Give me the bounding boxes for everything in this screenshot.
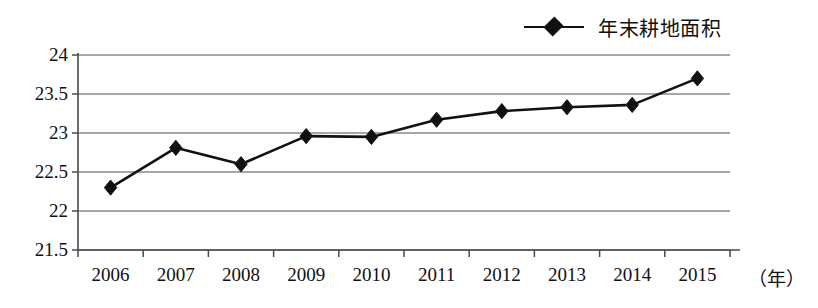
- x-axis-tick-label: 2012: [483, 264, 521, 286]
- x-axis-ticks: [78, 250, 730, 257]
- data-point-marker: [626, 97, 638, 112]
- data-point-marker: [561, 100, 573, 115]
- chart-legend: 年末耕地面积: [524, 10, 721, 44]
- data-point-marker: [365, 129, 377, 144]
- y-axis-tick-label: 24: [49, 44, 68, 66]
- data-point-marker: [691, 71, 703, 86]
- y-axis-tick-label: 23.5: [35, 83, 68, 105]
- y-axis-tick-label: 23: [49, 122, 68, 144]
- data-point-marker: [235, 157, 247, 172]
- data-point-marker: [496, 104, 508, 119]
- y-axis-labels: 21.52222.52323.524: [0, 0, 68, 308]
- data-point-marker: [430, 112, 442, 127]
- legend-entry-label: 年末耕地面积: [598, 13, 721, 42]
- data-point-marker: [300, 129, 312, 144]
- y-axis-ticks: [72, 55, 78, 250]
- legend-diamond-marker-icon: [524, 19, 584, 35]
- x-axis-tick-label: 2011: [418, 264, 455, 286]
- data-point-marker: [104, 180, 116, 195]
- x-axis-tick-label: 2015: [678, 264, 716, 286]
- x-axis-tick-label: 2006: [92, 264, 130, 286]
- plot-area: [0, 0, 818, 308]
- x-axis-unit-label: （年）: [748, 264, 805, 291]
- x-axis-tick-label: 2014: [613, 264, 651, 286]
- x-axis-tick-label: 2009: [287, 264, 325, 286]
- x-axis-tick-label: 2008: [222, 264, 260, 286]
- x-axis-tick-label: 2010: [352, 264, 390, 286]
- y-axis-tick-label: 22.5: [35, 161, 68, 183]
- y-axis-tick-label: 22: [49, 200, 68, 222]
- data-point-marker: [170, 140, 182, 155]
- x-axis-tick-label: 2013: [548, 264, 586, 286]
- x-axis-tick-label: 2007: [157, 264, 195, 286]
- line-chart: 年末耕地面积 21.52222.52323.524 20062007200820…: [0, 0, 818, 308]
- y-axis-tick-label: 21.5: [35, 239, 68, 261]
